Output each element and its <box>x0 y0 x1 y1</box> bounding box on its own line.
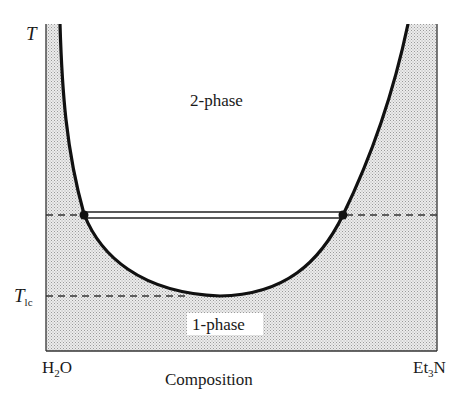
x-axis-label: Composition <box>165 370 253 389</box>
phase-diagram: 2-phase 1-phase T Tlc H2O Et3N Compositi… <box>0 0 474 402</box>
tie-line-gap <box>84 212 343 218</box>
x-axis-left-end-label: H2O <box>42 358 72 379</box>
one-phase-label: 1-phase <box>192 315 245 334</box>
lower-critical-temperature-label: Tlc <box>14 285 33 308</box>
tlc-sub: lc <box>25 296 33 308</box>
h2o-main: H <box>42 358 54 377</box>
coexistence-point-left <box>80 211 89 220</box>
coexistence-point-right <box>339 211 348 220</box>
et3n-tail: N <box>434 358 446 377</box>
y-axis-symbol: T <box>26 23 38 44</box>
two-phase-label: 2-phase <box>190 91 243 110</box>
x-axis-right-end-label: Et3N <box>413 358 446 379</box>
h2o-tail: O <box>60 358 72 377</box>
et3n-main: Et <box>413 358 428 377</box>
